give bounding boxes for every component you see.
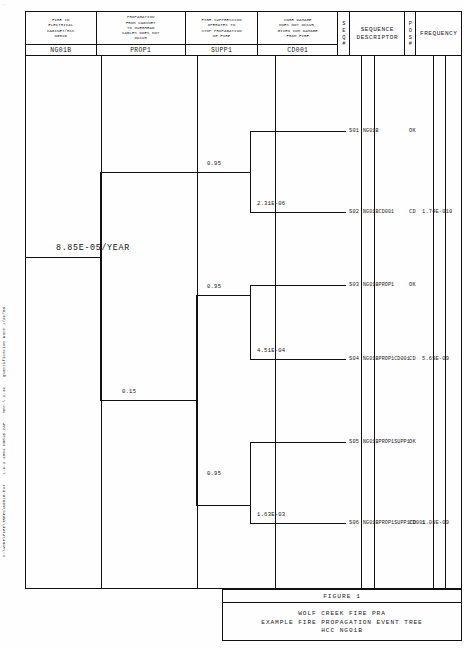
scan-artifact: . (3, 2, 6, 6)
header-col-pos-number-cell: P O S # (405, 12, 415, 55)
header-col-frequency: FREQUENCY (416, 12, 461, 55)
sequence-number-3: S03 (349, 282, 359, 288)
branch-label-prop1-failure: 0.15 (122, 388, 136, 395)
margin-file-stamp: C:\WCNP\FIRE\TREES\NG01B.EVT 1.9.2 2004 … (2, 300, 6, 557)
event-tree-body-frame (25, 56, 462, 589)
title-line-1: WOLF CREEK FIRE PRA (298, 610, 386, 617)
branch-label-prop1-success: 0.95 (207, 160, 221, 167)
margin-stamp-part-1: C:\WCNP\FIRE\TREES\NG01B.EVT (2, 484, 6, 557)
sequence-descriptor-5: NG01BPROP1SUPP1 (363, 439, 410, 445)
sequence-number-4: S04 (349, 356, 359, 362)
column-rule-6 (433, 56, 434, 588)
column-rule-4 (361, 56, 362, 588)
title-line-2: EXAMPLE FIRE PROPAGATION EVENT TREE (261, 619, 422, 626)
initiator-frequency-label: 8.85E-05/YEAR (56, 243, 130, 252)
sequence-pos-3: OK (409, 282, 416, 288)
header-col-frequency-cell: FREQUENCY (416, 12, 461, 55)
branch-label-cd001-lower: 1.63E-03 (257, 511, 285, 518)
header-col-supp1-title-cell: FIRE SUPPRESSION OPERATES TO STOP PROPAG… (186, 12, 257, 44)
header-col-initiator-code: NG01B (26, 44, 96, 55)
header-col-cd001-title: CORE DAMAGE DOES NOT OCCUR, GIVEN CDM DA… (278, 18, 318, 39)
header-col-prop1-title: PROPAGATION FROM CABINET TO OVERHEAD CAB… (122, 15, 160, 41)
header-col-cd001-code: CD001 (258, 44, 337, 55)
sequence-frequency-2: 1.74E-010 (422, 209, 452, 215)
column-rule-5 (374, 56, 375, 588)
sequence-pos-2: CD (409, 209, 416, 215)
sequence-pos-4: CD (409, 356, 416, 362)
header-col-supp1-code: SUPP1 (186, 44, 257, 55)
figure-number: FIGURE 1 (223, 590, 461, 603)
branch-label-cd001-top: 2.31E-06 (257, 200, 285, 207)
header-col-initiator: FIRE IN ELECTRICAL CABINET/HCC NG01B NG0… (26, 12, 97, 55)
column-rule-7 (445, 56, 446, 588)
header-col-pos-number-label: P O S # (409, 20, 412, 47)
header-col-seq-number: S E Q # (338, 12, 350, 55)
sequence-frequency-4: 5.69E-09 (422, 356, 449, 362)
header-col-initiator-title-cell: FIRE IN ELECTRICAL CABINET/HCC NG01B (26, 12, 96, 44)
event-tree-header-table: FIRE IN ELECTRICAL CABINET/HCC NG01B NG0… (25, 11, 462, 56)
header-col-seq-number-label: S E Q # (342, 20, 345, 47)
sequence-descriptor-4: NG01BPROP1CD001 (363, 356, 410, 362)
sequence-descriptor-2: NG01BCD001 (363, 209, 394, 215)
sequence-pos-5: OK (409, 439, 416, 445)
drawing-page: . FIRE IN ELECTRICAL CABINET/HCC NG01B N… (0, 0, 464, 648)
header-col-supp1-title: FIRE SUPPRESSION OPERATES TO STOP PROPAG… (201, 18, 241, 39)
header-col-supp1: FIRE SUPPRESSION OPERATES TO STOP PROPAG… (186, 12, 258, 55)
drawing-title-block: FIGURE 1 WOLF CREEK FIRE PRA EXAMPLE FIR… (222, 589, 462, 641)
sequence-pos-1: OK (409, 128, 416, 134)
header-col-cd001-title-cell: CORE DAMAGE DOES NOT OCCUR, GIVEN CDM DA… (258, 12, 337, 44)
branch-label-supp1-success-upper: 0.95 (207, 283, 221, 290)
column-rule-3 (275, 56, 276, 588)
header-col-prop1-code: PROP1 (97, 44, 185, 55)
header-col-cd001: CORE DAMAGE DOES NOT OCCUR, GIVEN CDM DA… (258, 12, 338, 55)
header-col-pos-number: P O S # (405, 12, 416, 55)
header-col-prop1-title-cell: PROPAGATION FROM CABINET TO OVERHEAD CAB… (97, 12, 185, 44)
sequence-number-2: S02 (349, 209, 359, 215)
branch-label-cd001-upper: 4.51E-04 (257, 347, 285, 354)
sequence-descriptor-3: NG01BPROP1 (363, 282, 394, 288)
branch-label-supp1-success-lower: 0.95 (207, 470, 221, 477)
sequence-number-1: S01 (349, 128, 359, 134)
sequence-number-6: S06 (349, 520, 359, 526)
title-lines: WOLF CREEK FIRE PRA EXAMPLE FIRE PROPAGA… (223, 603, 461, 640)
margin-stamp-part-3: MCC \ 2.32 (2, 387, 6, 413)
sequence-number-5: S05 (349, 439, 359, 445)
header-col-initiator-title: FIRE IN ELECTRICAL CABINET/HCC NG01B (47, 18, 75, 39)
margin-stamp-part-4: Quantification Date 1/29/06 (2, 307, 6, 377)
title-line-3: HCC NG01B (321, 627, 363, 634)
sequence-pos-6: CD (409, 520, 416, 526)
header-col-descriptor-label: SEQUENCE DESCRIPTOR (357, 26, 399, 42)
header-col-prop1: PROPAGATION FROM CABINET TO OVERHEAD CAB… (97, 12, 186, 55)
header-col-seq-number-cell: S E Q # (338, 12, 349, 55)
sequence-frequency-6: 1.08E-09 (422, 520, 449, 526)
header-col-frequency-label: FREQUENCY (420, 30, 457, 38)
header-col-descriptor: SEQUENCE DESCRIPTOR (350, 12, 405, 55)
header-col-descriptor-cell: SEQUENCE DESCRIPTOR (350, 12, 404, 55)
margin-stamp-part-2: 1.9.2 2004 NG01B.CAF (2, 422, 6, 474)
sequence-descriptor-1: NG01B (363, 128, 379, 134)
column-rule-1 (101, 56, 102, 588)
column-rule-2 (197, 56, 198, 588)
sequence-descriptor-6: NG01BPROP1SUPP1CD001 (363, 520, 425, 526)
